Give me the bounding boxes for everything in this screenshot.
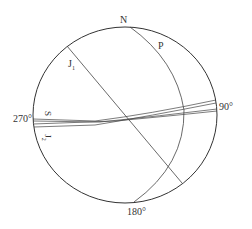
- great-circle-j1: [67, 46, 182, 183]
- joint-2-label: J2: [41, 134, 52, 141]
- slope-planes-s: [33, 100, 217, 127]
- stereonet: [0, 0, 252, 229]
- plane-p-label: P: [158, 41, 164, 51]
- joint-1-subscript: 1: [72, 65, 75, 71]
- east-label: 90°: [219, 102, 233, 112]
- south-label: 180°: [127, 207, 146, 217]
- slope-s-label: S: [43, 111, 52, 116]
- joint-1-label: J1: [68, 59, 75, 71]
- north-label: N: [120, 15, 127, 25]
- west-label: 270°: [13, 114, 32, 124]
- joint-2-subscript: 2: [41, 138, 47, 141]
